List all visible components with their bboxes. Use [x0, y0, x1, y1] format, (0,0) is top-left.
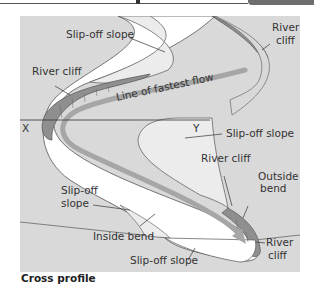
label-slip-off-slope-bottom: Slip-off slope	[130, 254, 198, 266]
meander-diagram: Slip-off slope River cliff River cliff L…	[0, 0, 314, 272]
label-river-cliff-bottom-1: River	[266, 236, 294, 248]
label-x-marker: X	[22, 122, 29, 134]
label-outside-bend-1: Outside	[258, 170, 299, 182]
label-inside-bend: Inside bend	[93, 230, 154, 242]
label-river-cliff-bottom-2: cliff	[268, 249, 288, 261]
label-slip-off-slope-top: Slip-off slope	[66, 28, 134, 40]
label-slip-off-left-2: slope	[61, 197, 89, 209]
label-slip-off-slope-mid: Slip-off slope	[226, 127, 294, 139]
label-river-cliff-left: River cliff	[32, 65, 82, 77]
label-slip-off-left-1: Slip-off	[61, 184, 99, 196]
figure-caption: Cross profile	[21, 272, 96, 284]
label-y-marker: Y	[192, 122, 200, 134]
label-river-cliff-top-right-1: River	[272, 21, 300, 33]
label-river-cliff-mid: River cliff	[201, 152, 251, 164]
label-river-cliff-top-right-2: cliff	[276, 34, 296, 46]
label-outside-bend-2: bend	[260, 182, 286, 194]
